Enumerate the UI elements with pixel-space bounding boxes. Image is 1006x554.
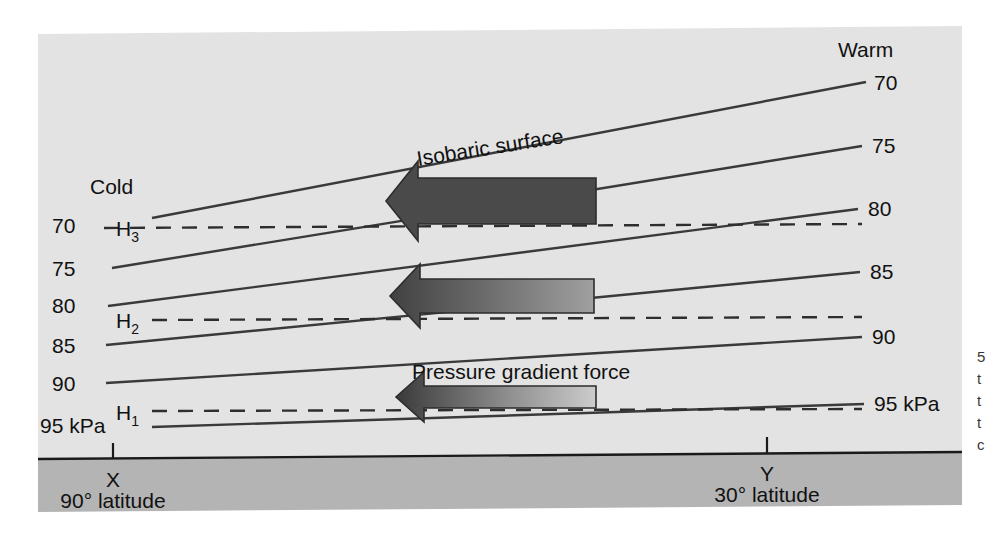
caption-fragment: 5 t t t c <box>977 348 985 453</box>
caption-line-3: t <box>977 392 982 409</box>
right-label-90: 90 <box>872 325 895 348</box>
cold-label: Cold <box>90 175 133 198</box>
right-label-85: 85 <box>870 260 893 283</box>
left-label-85: 85 <box>52 334 75 357</box>
warm-label: Warm <box>838 38 893 61</box>
ground-bar <box>38 452 962 512</box>
caption-line-4: t <box>977 414 982 431</box>
right-label-95-kpa: 95 kPa <box>874 392 940 415</box>
right-label-80: 80 <box>868 197 891 220</box>
left-label-70: 70 <box>52 214 75 237</box>
figure-root: 70 75 80 85 90 95 kPa 70 75 80 85 90 95 … <box>0 0 1006 554</box>
ground-latitude-left: 90° latitude <box>60 489 165 512</box>
ground-point-y: Y <box>760 462 774 485</box>
right-label-70: 70 <box>874 71 897 94</box>
ground-latitude-right: 30° latitude <box>714 483 819 506</box>
left-label-80: 80 <box>52 294 75 317</box>
right-label-75: 75 <box>872 134 895 157</box>
left-label-75: 75 <box>52 257 75 280</box>
left-label-95-kpa: 95 kPa <box>40 414 106 437</box>
caption-line-5: c <box>977 436 985 453</box>
ground-point-x: X <box>106 468 120 491</box>
isobaric-surface-diagram: 70 75 80 85 90 95 kPa 70 75 80 85 90 95 … <box>0 0 1006 554</box>
caption-line-2: t <box>977 370 982 387</box>
caption-line-1: 5 <box>977 348 985 365</box>
left-label-90: 90 <box>52 372 75 395</box>
pressure-gradient-force-label: Pressure gradient force <box>412 360 630 383</box>
